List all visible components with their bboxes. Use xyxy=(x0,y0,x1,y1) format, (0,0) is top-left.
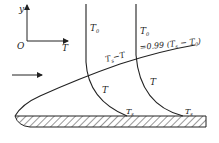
profile-1-mid-label: T xyxy=(102,85,109,95)
boundary-layer-diagram: y O T T0 T Ts T0 T Ts Ts−T =0.99 xyxy=(0,0,219,143)
origin-label: O xyxy=(17,41,25,51)
flat-plate xyxy=(15,116,206,127)
y-axis-label: y xyxy=(18,4,25,14)
profile-1-wall-label: Ts xyxy=(126,107,134,117)
profile-2-wall-label: Ts xyxy=(185,107,193,117)
profile-2-top-label: T0 xyxy=(140,26,150,37)
profile-1-top-label: T0 xyxy=(90,23,100,34)
t-axis-label: T xyxy=(62,43,69,53)
axes: y O T xyxy=(17,4,69,53)
edge-condition-label: =0.99 (Ts − T0) xyxy=(139,37,201,53)
profile-2-mid-label: T xyxy=(150,77,157,87)
temperature-profile-2: T0 T Ts xyxy=(136,4,193,117)
